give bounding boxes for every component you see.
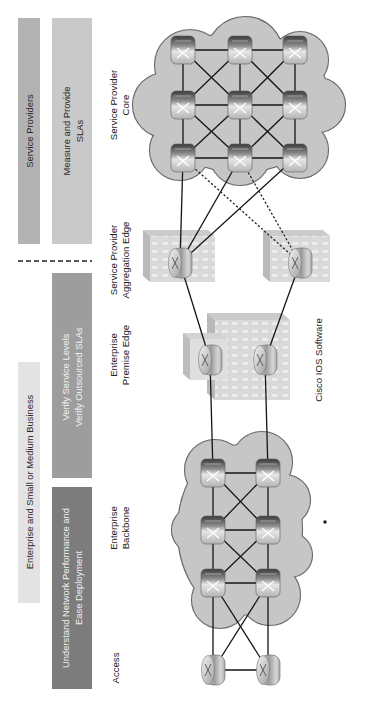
router-icon [169, 248, 193, 278]
router-icon [201, 516, 225, 544]
sp-aggregation-label-line1: Service Provider [108, 224, 119, 295]
service-providers-label: Service Providers [24, 94, 35, 168]
router-icon [283, 144, 307, 172]
router-icon [199, 345, 223, 375]
cisco-ios-label: Cisco IOS Software [313, 318, 324, 402]
router-icon [256, 459, 280, 487]
access-label: Access [110, 652, 121, 683]
router-icon [283, 91, 307, 119]
router-icon [283, 36, 307, 64]
enterprise-backbone-label-line2: Backbone [120, 507, 131, 550]
router-icon [171, 91, 195, 119]
router-icon [171, 144, 195, 172]
verify-label-line2: Verify Outsourced SLAs [73, 327, 84, 427]
enterprise-premise-label-line1: Enterprise [108, 333, 119, 377]
sp-core-label-line2: Core [120, 95, 131, 116]
enterprise-premise-label-line2: Premise Edge [120, 325, 131, 385]
router-icon [228, 91, 252, 119]
understand-label-line2: Ease Deployment [73, 551, 84, 625]
router-icon [254, 345, 278, 375]
router-icon [256, 516, 280, 544]
router-icon [289, 248, 313, 278]
router-icon [201, 459, 225, 487]
router-icon [202, 655, 226, 685]
understand-label-line1: Understand Network Performance and [60, 508, 71, 668]
network-diagram: Service Providers Measure and Provide SL… [0, 0, 367, 704]
measure-sla-label-line1: Measure and Provide [61, 86, 72, 175]
router-icon [201, 569, 225, 597]
left-panel: Service Providers Measure and Provide SL… [18, 18, 92, 689]
router-icon [171, 36, 195, 64]
stray-dot [323, 520, 327, 524]
enterprise-backbone-label-line1: Enterprise [108, 506, 119, 550]
sp-aggregation-label-line2: Aggregation Edge [120, 222, 131, 299]
router-icon [256, 569, 280, 597]
sp-core-label-line1: Service Provider [108, 69, 119, 140]
measure-sla-box [52, 18, 92, 244]
core-routers [171, 36, 307, 172]
verify-label-line1: Verify Service Levels [60, 333, 71, 420]
enterprise-smb-label: Enterprise and Small or Medium Business [24, 394, 35, 569]
measure-sla-label-line2: SLAs [74, 119, 85, 142]
router-icon [257, 655, 281, 685]
router-icon [228, 36, 252, 64]
router-icon [228, 144, 252, 172]
aggregation-routers [169, 248, 313, 278]
